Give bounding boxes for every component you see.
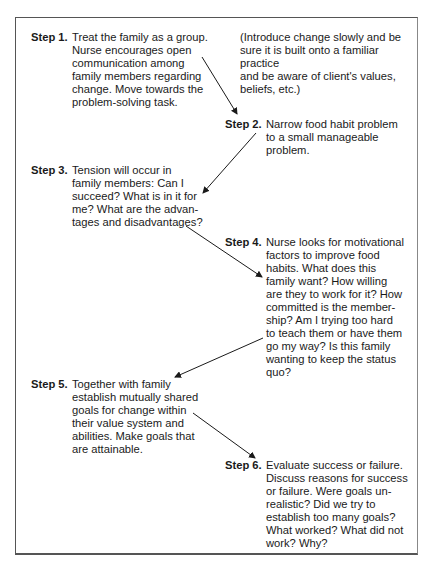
step-5-label: Step 5. xyxy=(31,378,68,391)
step-3-text: Tension will occur in family members: Ca… xyxy=(72,164,242,229)
step-5-text: Together with family establish mutually … xyxy=(72,378,242,456)
step-4-text: Nurse looks for motivational factors to … xyxy=(266,236,426,379)
step-2-label: Step 2. xyxy=(225,118,262,131)
introduce-change-note: (Introduce change slowly and be sure it … xyxy=(240,31,420,96)
step-4-label: Step 4. xyxy=(225,236,262,249)
step-3-label: Step 3. xyxy=(31,164,68,177)
step-2-text: Narrow food habit problem to a small man… xyxy=(266,118,426,157)
step-6-text: Evaluate success or failure. Discuss rea… xyxy=(266,459,426,550)
step-6-label: Step 6. xyxy=(225,459,262,472)
step-1-text: Treat the family as a group. Nurse encou… xyxy=(72,31,242,109)
step-1-label: Step 1. xyxy=(31,31,68,44)
